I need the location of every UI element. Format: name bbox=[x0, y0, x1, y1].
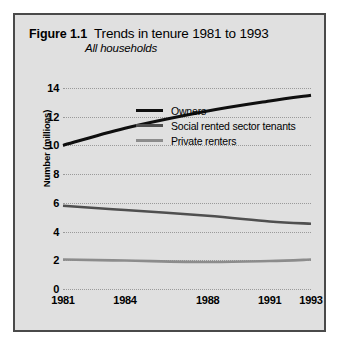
x-tick-label: 1984 bbox=[113, 294, 136, 306]
gridline bbox=[63, 289, 311, 290]
x-tick-label: 1991 bbox=[258, 294, 281, 306]
legend-item: Private renters bbox=[136, 133, 296, 148]
series-line bbox=[63, 260, 311, 262]
figure-panel: Figure 1.1 Trends in tenure 1981 to 1993… bbox=[13, 13, 326, 332]
y-tick-label: 2 bbox=[37, 254, 59, 266]
y-tick-label: 14 bbox=[37, 82, 59, 94]
legend-label: Private renters bbox=[171, 135, 236, 147]
legend-item: Social rented sector tenants bbox=[136, 118, 296, 133]
legend-label: Social rented sector tenants bbox=[171, 120, 296, 132]
legend-swatch bbox=[136, 124, 163, 127]
y-tick-label: 4 bbox=[37, 226, 59, 238]
chart-legend: OwnersSocial rented sector tenantsPrivat… bbox=[136, 103, 296, 148]
legend-swatch bbox=[136, 109, 163, 112]
x-tick-label: 1988 bbox=[196, 294, 219, 306]
y-axis-tick-labels: 02468101214 bbox=[35, 88, 59, 289]
x-tick-label: 1993 bbox=[299, 294, 322, 306]
y-tick-label: 12 bbox=[37, 111, 59, 123]
x-tick-label: 1981 bbox=[51, 294, 74, 306]
legend-swatch bbox=[136, 139, 163, 142]
x-axis-tick-labels: 19811984198819911993 bbox=[63, 294, 311, 310]
line-chart: Number (millions) 02468101214 1981198419… bbox=[15, 15, 328, 334]
y-tick-label: 6 bbox=[37, 197, 59, 209]
legend-label: Owners bbox=[171, 105, 206, 117]
y-tick-label: 10 bbox=[37, 139, 59, 151]
legend-item: Owners bbox=[136, 103, 296, 118]
y-tick-label: 8 bbox=[37, 168, 59, 180]
series-line bbox=[63, 206, 311, 224]
